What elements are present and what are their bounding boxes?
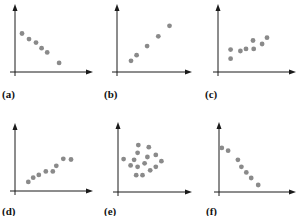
scatter-panel-f: (f) — [206, 122, 296, 216]
data-point — [260, 42, 265, 47]
data-point — [153, 153, 158, 158]
data-point — [251, 38, 256, 43]
data-point — [226, 148, 231, 153]
data-point — [135, 164, 140, 169]
data-point — [244, 47, 249, 52]
y-axis-arrow-icon — [116, 122, 121, 129]
data-point — [244, 170, 249, 175]
data-point — [238, 49, 243, 54]
x-axis-arrow-icon — [86, 70, 93, 75]
data-point — [142, 161, 147, 166]
data-point — [148, 168, 153, 173]
data-point — [135, 150, 140, 155]
data-point — [132, 157, 137, 162]
data-point — [69, 157, 74, 162]
data-point — [26, 180, 31, 185]
scatter-panel-c: (c) — [205, 4, 296, 101]
scatter-panel-a: (a) — [2, 4, 93, 101]
data-point — [228, 56, 233, 61]
scatter-plot-grid: (a)(b)(c)(d)(e)(f) — [0, 0, 298, 216]
panel-label: (f) — [206, 205, 217, 216]
data-point — [50, 169, 55, 174]
data-point — [251, 47, 256, 52]
panel-label: (d) — [2, 205, 16, 216]
scatter-panel-d: (d) — [2, 123, 93, 216]
data-point — [236, 157, 241, 162]
data-point — [249, 176, 254, 181]
data-point — [136, 143, 141, 148]
data-point — [34, 40, 39, 45]
data-point — [43, 169, 48, 174]
data-point — [146, 145, 151, 150]
y-axis-arrow-icon — [115, 4, 120, 11]
y-axis-arrow-icon — [217, 122, 222, 129]
data-point — [54, 163, 59, 168]
data-point — [265, 35, 270, 40]
scatter-panel-e: (e) — [104, 122, 192, 216]
data-point — [145, 155, 150, 160]
x-axis-arrow-icon — [185, 190, 192, 195]
data-point — [228, 47, 233, 52]
data-point — [57, 61, 62, 66]
x-axis-arrow-icon — [185, 70, 192, 75]
x-axis-arrow-icon — [289, 190, 296, 195]
data-point — [256, 183, 261, 188]
panel-label: (e) — [104, 205, 117, 216]
x-axis-arrow-icon — [86, 189, 93, 194]
data-point — [239, 164, 244, 169]
data-point — [36, 173, 41, 178]
data-point — [153, 164, 158, 169]
data-point — [20, 31, 25, 36]
data-point — [39, 46, 44, 51]
data-point — [134, 53, 139, 58]
y-axis-arrow-icon — [13, 4, 18, 11]
data-point — [140, 173, 145, 178]
data-point — [156, 34, 161, 39]
data-point — [219, 146, 224, 151]
data-point — [145, 44, 150, 49]
data-point — [128, 163, 133, 168]
data-point — [45, 50, 50, 55]
y-axis-arrow-icon — [216, 4, 221, 11]
data-point — [31, 175, 36, 180]
x-axis-arrow-icon — [289, 70, 296, 75]
data-point — [27, 37, 32, 42]
data-point — [129, 58, 134, 63]
data-point — [121, 157, 126, 162]
panel-label: (c) — [205, 88, 218, 101]
data-point — [61, 156, 66, 161]
panel-label: (b) — [104, 88, 118, 101]
panel-label: (a) — [2, 88, 15, 101]
data-point — [167, 23, 172, 28]
data-point — [159, 159, 164, 164]
scatter-panel-b: (b) — [104, 4, 192, 101]
y-axis-arrow-icon — [13, 123, 18, 130]
data-point — [134, 173, 139, 178]
